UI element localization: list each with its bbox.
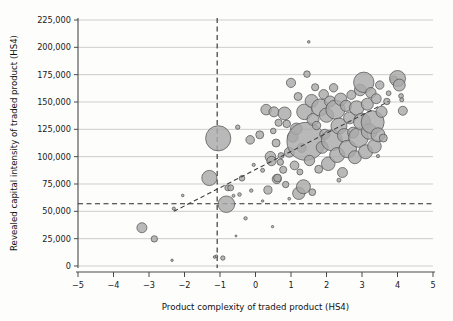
chart-svg: 025,00050,00075,000100,000125,000150,000… [0, 0, 453, 321]
data-point-bubble [218, 196, 235, 213]
data-point-bubble [261, 168, 265, 172]
data-point-bubble [137, 223, 147, 233]
data-point-bubble [264, 186, 272, 194]
data-point-bubble [238, 193, 242, 197]
y-tick-label: 50,000 [42, 206, 71, 216]
data-point-bubble [393, 79, 405, 91]
x-tick-label: −3 [143, 280, 155, 290]
x-ticks: −5−4−3−2−1012345 [72, 272, 436, 290]
data-point-bubble [236, 125, 240, 129]
x-tick-label: −1 [214, 280, 226, 290]
data-point-bubble [171, 259, 173, 261]
data-point-bubble [304, 155, 314, 165]
x-tick-label: −2 [178, 280, 190, 290]
data-point-bubble [256, 131, 264, 139]
data-point-bubble [232, 194, 235, 197]
x-tick-label: 5 [430, 280, 435, 290]
data-point-bubble [290, 161, 299, 170]
data-point-bubble [329, 84, 337, 92]
bubble-chart-figure: 025,00050,00075,000100,000125,000150,000… [0, 0, 453, 321]
data-point-bubble [312, 84, 319, 91]
data-point-bubble [337, 178, 341, 182]
data-points [137, 41, 407, 262]
data-point-bubble [376, 106, 387, 117]
y-tick-label: 175,000 [37, 70, 71, 80]
data-point-bubble [312, 121, 320, 129]
y-tick-label: 0 [66, 261, 71, 271]
data-point-bubble [228, 185, 234, 191]
data-point-bubble [288, 197, 291, 200]
data-point-bubble [206, 126, 231, 151]
data-point-bubble [297, 169, 303, 175]
data-point-bubble [246, 136, 255, 145]
data-point-bubble [386, 91, 391, 96]
x-tick-label: −5 [72, 280, 84, 290]
data-point-bubble [379, 134, 387, 142]
data-point-bubble [181, 194, 184, 197]
x-tick-label: 0 [253, 280, 258, 290]
data-point-bubble [309, 189, 316, 196]
data-point-bubble [267, 156, 276, 165]
data-point-bubble [261, 200, 263, 202]
data-point-bubble [371, 94, 381, 104]
y-tick-label: 150,000 [37, 97, 71, 107]
x-tick-label: −4 [107, 280, 119, 290]
data-point-bubble [215, 255, 218, 258]
data-point-bubble [294, 93, 302, 101]
x-tick-label: 1 [288, 280, 293, 290]
y-axis-title: Revealed capital intensity of traded pro… [9, 35, 19, 251]
x-axis-title: Product complexity of traded product (HS… [162, 302, 349, 312]
data-point-bubble [252, 163, 255, 166]
data-point-bubble [398, 106, 407, 115]
x-tick-label: 4 [395, 280, 400, 290]
y-tick-label: 100,000 [37, 152, 71, 162]
data-point-bubble [272, 139, 280, 147]
data-point-bubble [202, 170, 217, 185]
y-tick-label: 125,000 [37, 124, 71, 134]
data-point-bubble [376, 81, 384, 89]
x-tick-label: 3 [359, 280, 364, 290]
data-point-bubble [269, 107, 279, 117]
y-tick-label: 225,000 [37, 15, 71, 25]
data-point-bubble [286, 78, 295, 87]
data-point-bubble [275, 119, 282, 126]
data-point-bubble [400, 98, 404, 102]
data-point-bubble [307, 41, 310, 44]
data-point-bubble [296, 180, 310, 194]
y-tick-label: 25,000 [42, 234, 71, 244]
data-point-bubble [282, 181, 288, 187]
data-point-bubble [376, 155, 379, 158]
data-point-bubble [283, 120, 291, 128]
data-point-bubble [250, 189, 253, 192]
data-point-bubble [270, 128, 276, 134]
data-point-bubble [315, 165, 323, 173]
data-point-bubble [244, 217, 247, 220]
data-point-bubble [277, 159, 283, 165]
data-point-bubble [280, 166, 287, 173]
x-tick-label: 2 [324, 280, 329, 290]
data-point-bubble [274, 174, 282, 182]
data-point-bubble [235, 235, 237, 237]
data-point-bubble [278, 107, 291, 120]
data-point-bubble [172, 207, 175, 210]
data-point-bubble [151, 236, 157, 242]
y-tick-label: 75,000 [42, 179, 71, 189]
y-tick-label: 200,000 [37, 42, 71, 52]
data-point-bubble [221, 256, 225, 260]
data-point-bubble [304, 71, 311, 78]
data-point-bubble [337, 168, 347, 178]
data-point-bubble [271, 225, 273, 227]
